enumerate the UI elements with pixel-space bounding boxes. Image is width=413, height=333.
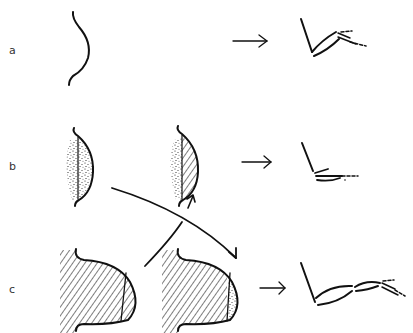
row-b-shape-stippled-hatched xyxy=(170,126,198,206)
diagram: a b c xyxy=(0,0,413,333)
right-arrow-icon xyxy=(260,282,285,294)
right-arrow-icon xyxy=(242,156,271,168)
row-c-shape-hatched xyxy=(60,249,150,333)
row-b-linkage xyxy=(302,143,358,181)
row-b-shape-stippled xyxy=(66,128,93,206)
row-c-linkage xyxy=(301,263,405,305)
right-arrow-icon xyxy=(233,35,267,47)
diagram-drawing xyxy=(0,0,413,333)
row-a-linkage xyxy=(301,19,366,56)
curved-arrow-icon xyxy=(112,188,236,258)
row-a-outline xyxy=(69,12,89,85)
row-c-shape-hatched-stippled xyxy=(162,249,248,333)
